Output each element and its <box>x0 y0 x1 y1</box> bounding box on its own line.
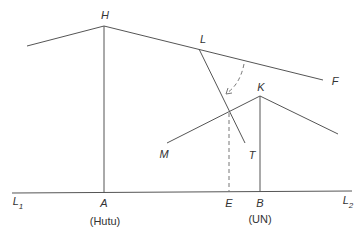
diagram-canvas <box>0 0 363 235</box>
caption-hutu: (Hutu) <box>90 215 121 227</box>
line-h-to-f <box>104 26 323 80</box>
line-k-to-right <box>260 96 338 134</box>
label-l2: L2 <box>343 194 354 209</box>
dashed-rotation-arc <box>227 64 244 93</box>
baseline-l1-l2 <box>12 191 352 193</box>
label-k: K <box>257 81 264 93</box>
label-f: F <box>332 75 339 87</box>
caption-un: (UN) <box>248 213 271 225</box>
label-t: T <box>249 149 256 161</box>
label-m: M <box>159 148 168 160</box>
line-m-to-k <box>167 96 260 143</box>
line-left-to-h <box>27 26 104 46</box>
label-b: B <box>256 197 263 209</box>
label-e: E <box>225 197 232 209</box>
label-a: A <box>100 197 107 209</box>
label-l1: L1 <box>13 195 24 210</box>
line-l-to-t <box>199 49 245 143</box>
label-l: L <box>200 33 206 45</box>
label-h: H <box>101 9 109 21</box>
